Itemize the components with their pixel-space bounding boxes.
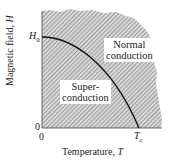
superconduction-label: Super- conduction bbox=[60, 80, 111, 104]
tc-sub: c bbox=[140, 136, 143, 144]
super-label-line2: conduction bbox=[62, 92, 109, 103]
y-axis-label-var: H bbox=[4, 15, 15, 22]
x-axis-label-text: Temperature, bbox=[62, 146, 115, 157]
x-tick-zero: 0 bbox=[39, 131, 44, 142]
y-tick-h0: H0 bbox=[29, 30, 40, 44]
normal-conduction-label: Normal conduction bbox=[104, 38, 155, 62]
x-axis-label-var: T bbox=[117, 146, 123, 157]
y-axis-label-text: Magnetic field, bbox=[4, 25, 15, 86]
y-axis-label: Magnetic field, H bbox=[4, 15, 15, 86]
x-tick-tc: Tc bbox=[134, 130, 143, 144]
h0-sub: 0 bbox=[36, 36, 40, 44]
super-label-line1: Super- bbox=[62, 81, 109, 92]
normal-label-line2: conduction bbox=[106, 50, 153, 61]
phase-diagram: Normal conduction Super- conduction H0 0… bbox=[0, 0, 171, 166]
x-axis-label: Temperature, T bbox=[62, 146, 123, 157]
normal-label-line1: Normal bbox=[106, 39, 153, 50]
